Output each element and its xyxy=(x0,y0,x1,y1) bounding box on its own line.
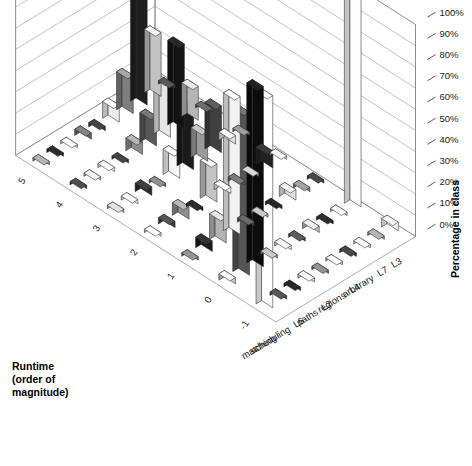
bar xyxy=(182,79,199,120)
percentage-tick-label: 90% xyxy=(440,28,460,39)
bar xyxy=(61,137,78,148)
bar xyxy=(298,271,315,282)
bar xyxy=(303,219,320,233)
bar xyxy=(330,205,347,216)
category-label: L7 xyxy=(375,264,390,279)
bar xyxy=(219,270,236,284)
runtime-tick-label: 3 xyxy=(90,223,102,233)
category-label: L3 xyxy=(389,255,404,270)
runtime-axis-title: Runtime (order of magnitude) xyxy=(12,360,120,399)
bar xyxy=(326,254,343,265)
bar xyxy=(47,146,64,157)
bar xyxy=(354,237,371,248)
bar xyxy=(368,229,385,240)
runtime-axis-title-line3: magnitude) xyxy=(12,386,120,399)
runtime-tick-label: -1 xyxy=(237,318,251,331)
bar xyxy=(84,170,101,181)
runtime-tick-label: 1 xyxy=(165,271,177,281)
percentage-tick-label: 80% xyxy=(440,49,460,60)
runtime-axis-title-line2: (order of xyxy=(12,373,120,386)
runtime-axis-title-line1: Runtime xyxy=(12,360,120,373)
bar xyxy=(121,193,138,204)
bar xyxy=(144,26,161,97)
bar xyxy=(89,119,106,130)
runtime-tick-label: 4 xyxy=(53,199,65,209)
bar xyxy=(284,280,301,291)
bar xyxy=(98,160,115,171)
bar xyxy=(200,157,217,202)
runtime-tick-label: 2 xyxy=(127,247,139,257)
bar xyxy=(182,250,199,261)
bar xyxy=(223,90,240,235)
category-label: arbitrary xyxy=(340,272,376,300)
bar xyxy=(312,263,329,274)
bar xyxy=(75,126,92,140)
bar xyxy=(112,153,129,164)
chart-canvas: 0%10%20%30%40%50%60%70%80%90%100% matchi… xyxy=(0,0,472,466)
percentage-axis-title: Percentage in class xyxy=(449,180,461,278)
percentage-tick-label: 70% xyxy=(440,70,460,81)
bar xyxy=(149,176,166,187)
bar xyxy=(158,214,175,228)
bar xyxy=(340,246,357,257)
bar xyxy=(275,238,292,249)
bar xyxy=(344,0,361,207)
bar xyxy=(316,214,333,225)
bar xyxy=(172,199,189,219)
bar xyxy=(70,178,87,189)
runtime-tick-label: 0 xyxy=(202,294,214,304)
category-label: scheduling xyxy=(247,323,292,356)
bar xyxy=(33,154,50,165)
runtime-tick-label: 5 xyxy=(16,175,28,185)
percentage-tick-label: 100% xyxy=(440,7,465,18)
bar xyxy=(107,202,124,213)
category-label: paths xyxy=(294,306,320,328)
bar xyxy=(289,231,306,242)
bar xyxy=(144,226,161,237)
